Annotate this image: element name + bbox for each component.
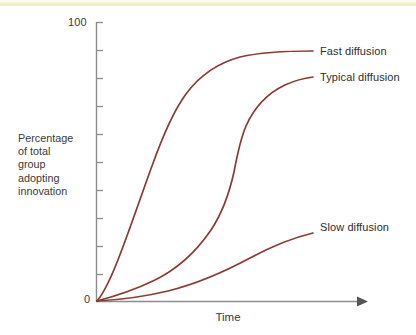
series-label-typical-diffusion: Typical diffusion xyxy=(320,71,400,83)
y-axis-ticks xyxy=(97,23,104,275)
y-axis-title-line-5: innovation xyxy=(18,185,94,198)
curve-fast-diffusion xyxy=(97,51,313,301)
y-axis-max-label: 100 xyxy=(68,16,87,28)
y-axis xyxy=(97,22,104,302)
y-axis-title: Percentage of total group adopting innov… xyxy=(18,132,94,198)
y-axis-title-line-1: Percentage xyxy=(18,132,94,145)
series-label-slow-diffusion: Slow diffusion xyxy=(320,221,389,233)
curve-typical-diffusion xyxy=(97,77,313,301)
chart-canvas: 100 0 Time Percentage of total group ado… xyxy=(0,0,416,335)
series-label-fast-diffusion: Fast diffusion xyxy=(320,45,387,57)
x-axis xyxy=(96,297,368,307)
y-axis-min-label: 0 xyxy=(84,293,90,305)
y-axis-title-line-3: group xyxy=(18,158,94,171)
x-axis-arrowhead xyxy=(357,297,368,307)
x-axis-title: Time xyxy=(178,311,278,323)
curves-group xyxy=(97,51,313,301)
y-axis-title-line-2: of total xyxy=(18,145,94,158)
y-axis-title-line-4: adopting xyxy=(18,172,94,185)
